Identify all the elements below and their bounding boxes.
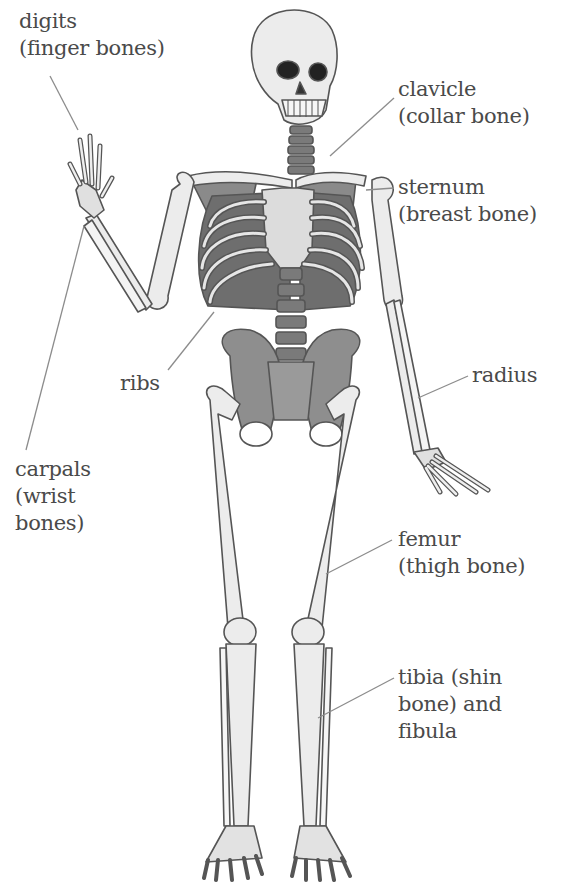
label-carpals-line1: carpals	[15, 456, 91, 483]
label-femur-line1: femur	[398, 526, 525, 553]
label-radius-line1: radius	[472, 362, 537, 389]
skull	[251, 10, 337, 124]
ribs-leader	[168, 312, 214, 370]
label-digits: digits (finger bones)	[19, 8, 165, 62]
lower-legs	[220, 644, 332, 826]
label-sternum-line1: sternum	[398, 174, 537, 201]
feet	[204, 826, 350, 880]
label-radius: radius	[472, 362, 537, 389]
label-tibia-line2: bone) and	[398, 691, 502, 718]
carpals-leader	[26, 226, 84, 450]
label-clavicle-line1: clavicle	[398, 76, 530, 103]
label-femur: femur (thigh bone)	[398, 526, 525, 580]
label-digits-line2: (finger bones)	[19, 35, 165, 62]
radius-leader	[418, 376, 468, 398]
label-tibia: tibia (shin bone) and fibula	[398, 664, 502, 745]
label-ribs-line1: ribs	[120, 370, 160, 397]
label-clavicle-line2: (collar bone)	[398, 103, 530, 130]
femur-leader	[326, 540, 392, 574]
clavicle-leader	[330, 98, 394, 156]
label-clavicle: clavicle (collar bone)	[398, 76, 530, 130]
label-femur-line2: (thigh bone)	[398, 553, 525, 580]
skeleton-illustration	[0, 0, 577, 882]
label-sternum-line2: (breast bone)	[398, 201, 537, 228]
cervical-spine	[288, 126, 314, 174]
label-carpals-line3: bones)	[15, 510, 91, 537]
label-carpals: carpals (wrist bones)	[15, 456, 91, 537]
digits-leader	[50, 76, 78, 130]
left-arm	[70, 136, 194, 312]
label-carpals-line2: (wrist	[15, 483, 91, 510]
pelvis	[222, 329, 359, 446]
label-ribs: ribs	[120, 370, 160, 397]
label-sternum: sternum (breast bone)	[398, 174, 537, 228]
label-tibia-line1: tibia (shin	[398, 664, 502, 691]
label-tibia-line3: fibula	[398, 718, 502, 745]
label-digits-line1: digits	[19, 8, 165, 35]
